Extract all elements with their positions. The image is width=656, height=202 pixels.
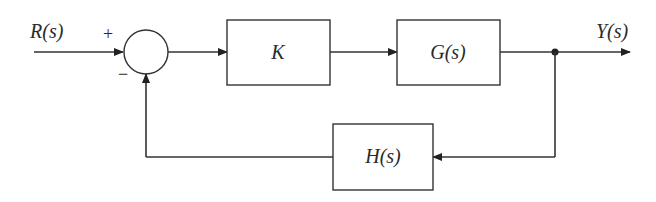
- controller-label: K: [270, 41, 286, 63]
- block-diagram: R(s) + − K G(s) Y(s) H(s): [0, 0, 656, 202]
- plus-sign: +: [103, 24, 113, 44]
- input-label: R(s): [29, 20, 64, 43]
- minus-sign: −: [118, 64, 128, 84]
- feedback-label: H(s): [364, 145, 401, 168]
- output-label: Y(s): [596, 20, 629, 43]
- summing-junction: [124, 30, 168, 74]
- plant-label: G(s): [430, 41, 466, 64]
